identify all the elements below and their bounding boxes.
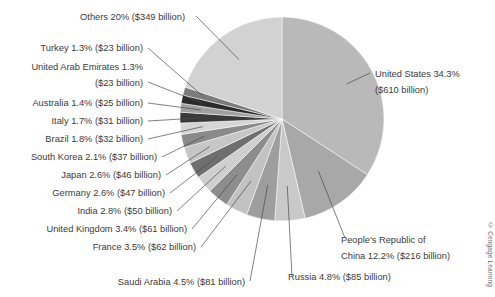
slice-label-south-korea: South Korea 2.1% ($37 billion) — [31, 152, 157, 162]
slice-label-japan: Japan 2.6% ($46 billion) — [61, 170, 161, 180]
copyright-credit: © Cengage Learning — [482, 222, 494, 296]
slice-label-turkey: Turkey 1.3% ($23 billion) — [41, 43, 143, 53]
slice-label-united-kingdom: United Kingdom 3.4% ($61 billion) — [46, 224, 187, 234]
slice-label-brazil: Brazil 1.8% ($32 billion) — [45, 134, 143, 144]
slice-label-uae-line2: ($23 billion) — [95, 78, 143, 88]
pie-slice-group — [180, 17, 384, 221]
slice-label-united-states-line2: ($610 billion) — [375, 85, 428, 95]
slice-label-australia: Australia 1.4% ($25 billion) — [32, 98, 143, 108]
slice-label-saudi-arabia: Saudi Arabia 4.5% ($81 billion) — [118, 277, 245, 287]
slice-label-russia: Russia 4.8% ($85 billion) — [288, 272, 391, 282]
slice-label-china-line2: China 12.2% ($216 billion) — [341, 251, 450, 261]
slice-label-france: France 3.5% ($62 billion) — [93, 242, 196, 252]
figure-container: Others 20% ($349 billion) Turkey 1.3% ($… — [0, 0, 495, 297]
slice-label-united-states-line1: United States 34.3% — [375, 69, 460, 79]
slice-label-others: Others 20% ($349 billion) — [80, 12, 185, 22]
pie-chart: Others 20% ($349 billion) Turkey 1.3% ($… — [0, 0, 495, 297]
slice-label-india: India 2.8% ($50 billion) — [77, 206, 172, 216]
slice-label-china-line1: People's Republic of — [341, 235, 426, 245]
slice-label-germany: Germany 2.6% ($47 billion) — [52, 188, 165, 198]
slice-label-uae-line1: United Arab Emirates 1.3% — [31, 62, 143, 72]
slice-label-italy: Italy 1.7% ($31 billion) — [52, 116, 143, 126]
